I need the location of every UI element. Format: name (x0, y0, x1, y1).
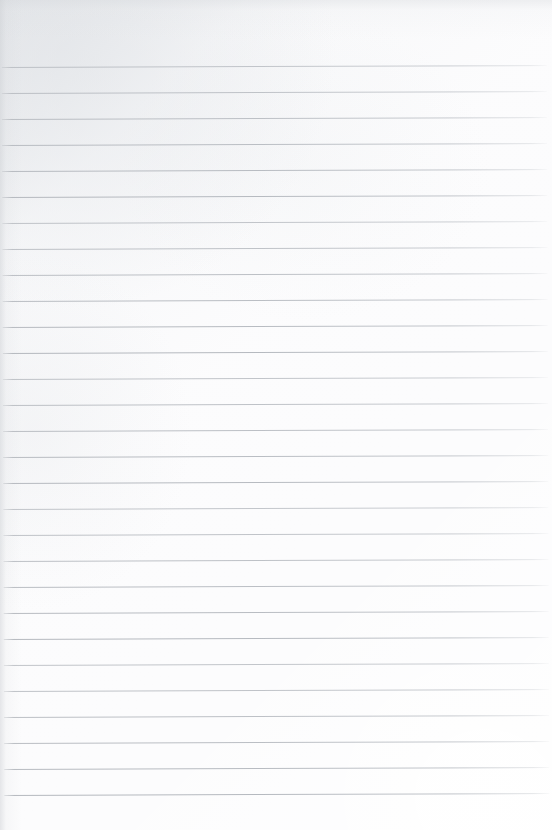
paper-surface (0, 0, 552, 830)
notebook-page (0, 0, 552, 830)
